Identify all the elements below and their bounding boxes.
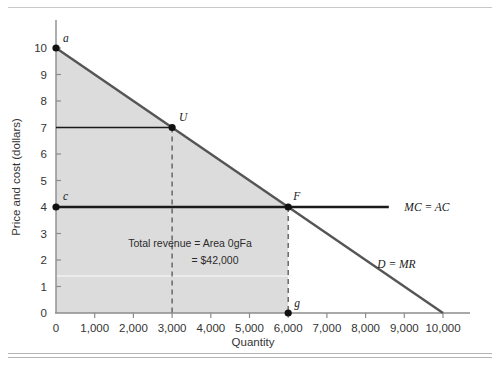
total-revenue-annotation-line1: Total revenue = Area 0gFa bbox=[128, 237, 252, 249]
point-label-a: a bbox=[63, 32, 69, 44]
figure-container: 01,0002,0003,0004,0005,0006,0007,0008,00… bbox=[0, 0, 500, 370]
y-tick-label: 0 bbox=[41, 307, 47, 319]
y-tick-label: 5 bbox=[41, 175, 47, 187]
point-label-F: F bbox=[292, 190, 301, 202]
curve-label-mc-ac: MC = AC bbox=[403, 201, 450, 213]
total-revenue-annotation-line2: = $42,000 bbox=[191, 254, 238, 266]
y-tick-label: 8 bbox=[41, 95, 47, 107]
monopoly-price-cost-chart: 01,0002,0003,0004,0005,0006,0007,0008,00… bbox=[0, 0, 500, 370]
x-tick-label: 10,000 bbox=[425, 322, 460, 334]
y-tick-label: 1 bbox=[41, 281, 47, 293]
y-axis-title: Price and cost (dollars) bbox=[10, 118, 22, 236]
x-axis-title: Quantity bbox=[232, 336, 275, 348]
x-axis-tick-labels: 01,0002,0003,0004,0005,0006,0007,0008,00… bbox=[53, 322, 461, 334]
y-tick-label: 3 bbox=[41, 228, 47, 240]
y-tick-label: 6 bbox=[41, 148, 47, 160]
point-label-c: c bbox=[63, 190, 68, 202]
point-c bbox=[52, 203, 59, 210]
y-tick-label: 7 bbox=[41, 122, 47, 134]
y-tick-label: 2 bbox=[41, 254, 47, 266]
point-a bbox=[52, 44, 59, 51]
point-label-U: U bbox=[179, 111, 188, 123]
x-tick-label: 0 bbox=[53, 322, 59, 334]
x-axis-ticks bbox=[95, 313, 443, 318]
point-g bbox=[285, 309, 292, 316]
y-tick-label: 9 bbox=[41, 69, 47, 81]
x-tick-label: 9,000 bbox=[390, 322, 419, 334]
x-tick-label: 2,000 bbox=[119, 322, 148, 334]
x-tick-label: 5,000 bbox=[235, 322, 264, 334]
x-tick-label: 3,000 bbox=[158, 322, 187, 334]
curve-label-d-mr: D = MR bbox=[376, 258, 415, 270]
x-tick-label: 7,000 bbox=[313, 322, 342, 334]
y-axis-tick-labels: 012345678910 bbox=[34, 42, 47, 319]
x-tick-label: 6,000 bbox=[274, 322, 303, 334]
point-U bbox=[169, 124, 176, 131]
curve-labels: D = MRMC = AC bbox=[376, 201, 450, 270]
x-tick-label: 4,000 bbox=[196, 322, 225, 334]
x-tick-label: 8,000 bbox=[351, 322, 380, 334]
y-tick-label: 4 bbox=[41, 201, 48, 213]
y-tick-label: 10 bbox=[34, 42, 47, 54]
point-F bbox=[285, 203, 292, 210]
point-label-g: g bbox=[294, 297, 300, 310]
x-tick-label: 1,000 bbox=[80, 322, 109, 334]
